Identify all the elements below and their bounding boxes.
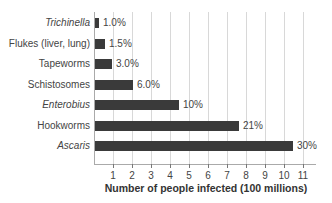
x-axis-label: Number of people infected (100 millions) (0, 182, 332, 194)
bar-value-label: 21% (243, 120, 263, 132)
x-tick (151, 164, 152, 168)
x-tick (303, 164, 304, 168)
x-tick-label: 3 (148, 170, 154, 181)
x-tick-label: 10 (278, 170, 289, 181)
x-tick (132, 164, 133, 168)
category-label: Enterobius (42, 99, 90, 111)
bar (95, 18, 99, 28)
x-axis (94, 164, 316, 165)
x-tick (265, 164, 266, 168)
x-tick (170, 164, 171, 168)
x-tick-label: 9 (262, 170, 268, 181)
bar-value-label: 6.0% (137, 79, 160, 91)
x-tick (208, 164, 209, 168)
category-label: Schistosomes (28, 79, 90, 91)
bar-chart: 1234567891011 Trichinella1.0%Flukes (liv… (0, 0, 332, 203)
x-tick (113, 164, 114, 168)
x-tick (246, 164, 247, 168)
category-label: Ascaris (57, 140, 90, 152)
bar-value-label: 1.5% (109, 38, 132, 50)
category-label: Tapeworms (39, 58, 90, 70)
bar-value-label: 30% (297, 140, 317, 152)
x-tick-label: 4 (167, 170, 173, 181)
category-label: Trichinella (45, 17, 90, 29)
category-label: Hookworms (37, 120, 90, 132)
bar (95, 141, 293, 151)
bar-value-label: 10% (183, 99, 203, 111)
bar (95, 100, 179, 110)
x-tick (227, 164, 228, 168)
x-tick (284, 164, 285, 168)
bar (95, 80, 133, 90)
x-tick-label: 1 (110, 170, 116, 181)
x-tick-label: 7 (224, 170, 230, 181)
x-tick-label: 6 (205, 170, 211, 181)
bar-value-label: 3.0% (116, 58, 139, 70)
bar (95, 121, 239, 131)
bar (95, 39, 105, 49)
x-tick-label: 2 (129, 170, 135, 181)
x-tick-label: 11 (298, 170, 308, 181)
x-tick (189, 164, 190, 168)
bar (95, 59, 112, 69)
x-tick-label: 8 (243, 170, 249, 181)
bar-value-label: 1.0% (103, 17, 126, 29)
category-label: Flukes (liver, lung) (9, 38, 90, 50)
x-tick-label: 5 (186, 170, 192, 181)
